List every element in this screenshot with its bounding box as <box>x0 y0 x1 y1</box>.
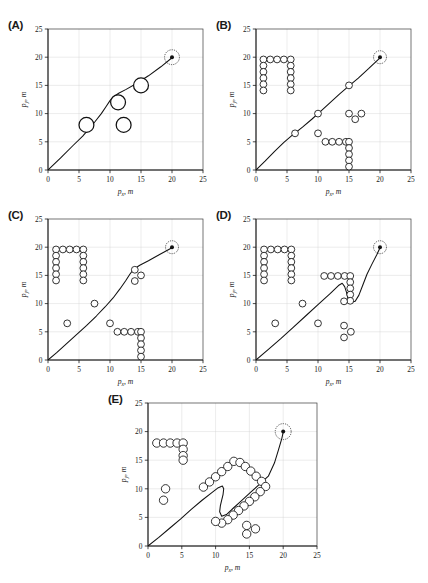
panel-c: (C)05101520250510152025px, mpy, m <box>8 204 214 396</box>
x-axis-label: px, m <box>325 187 342 197</box>
svg-text:0: 0 <box>46 365 50 374</box>
svg-text:15: 15 <box>243 81 251 90</box>
svg-text:15: 15 <box>137 175 145 184</box>
svg-text:0: 0 <box>146 551 150 560</box>
obstacle-marker <box>299 300 306 307</box>
goal-dot-icon <box>378 55 382 59</box>
svg-text:5: 5 <box>180 551 184 560</box>
svg-text:0: 0 <box>247 356 251 365</box>
x-axis-label: px, m <box>325 377 342 387</box>
panel-b: (B)05101520250510152025px, mpy, m <box>216 14 422 206</box>
panel-e: (E)05101520250510152025px, mpy, m <box>108 388 328 582</box>
svg-text:15: 15 <box>35 271 43 280</box>
obstacle-marker <box>243 530 251 538</box>
obstacle-marker <box>358 110 365 117</box>
svg-text:20: 20 <box>168 365 176 374</box>
obstacle-marker <box>179 456 187 464</box>
svg-text:0: 0 <box>39 166 43 175</box>
obstacle-marker <box>114 328 121 335</box>
obstacle-marker <box>59 246 66 253</box>
obstacle-marker <box>131 266 138 273</box>
goal-dot-icon <box>281 430 285 434</box>
svg-text:0: 0 <box>254 175 258 184</box>
obstacle-marker <box>260 87 267 94</box>
svg-text:10: 10 <box>314 365 322 374</box>
svg-text:5: 5 <box>247 328 251 337</box>
obstacle-marker <box>315 130 322 137</box>
svg-text:15: 15 <box>35 81 43 90</box>
svg-text:0: 0 <box>254 365 258 374</box>
svg-text:15: 15 <box>243 271 251 280</box>
svg-text:20: 20 <box>35 53 43 62</box>
panel-label-a: (A) <box>8 19 23 31</box>
obstacle-marker <box>288 277 295 284</box>
obstacle-marker <box>211 517 219 525</box>
plot-b: 05101520250510152025px, mpy, m <box>216 14 422 206</box>
svg-text:10: 10 <box>135 485 143 494</box>
obstacle-marker <box>329 138 336 145</box>
svg-text:20: 20 <box>243 53 251 62</box>
obstacle-marker <box>315 320 322 327</box>
svg-text:25: 25 <box>135 399 143 408</box>
obstacle-marker <box>131 278 138 285</box>
obstacle-marker <box>53 277 60 284</box>
obstacle-marker <box>328 273 335 280</box>
obstacle-marker <box>159 496 167 504</box>
svg-text:10: 10 <box>106 175 114 184</box>
obstacle-marker <box>64 320 71 327</box>
svg-text:5: 5 <box>285 365 289 374</box>
obstacle-marker <box>243 521 251 529</box>
obstacle-marker <box>251 525 259 533</box>
svg-text:25: 25 <box>35 25 43 34</box>
svg-text:20: 20 <box>280 551 288 560</box>
obstacle-marker <box>91 300 98 307</box>
obstacle-marker <box>138 353 145 360</box>
svg-text:5: 5 <box>39 328 43 337</box>
svg-text:5: 5 <box>39 138 43 147</box>
obstacle-marker <box>280 56 287 63</box>
svg-text:25: 25 <box>35 215 43 224</box>
panel-d: (D)05101520250510152025px, mpy, m <box>216 204 422 396</box>
svg-text:10: 10 <box>35 109 43 118</box>
obstacle-marker <box>274 246 281 253</box>
obstacle-marker <box>352 116 359 123</box>
obstacle-marker <box>346 163 353 170</box>
obstacle-marker <box>134 78 149 93</box>
plot-e: 05101520250510152025px, mpy, m <box>108 388 328 582</box>
svg-text:25: 25 <box>407 175 415 184</box>
obstacle-marker <box>287 87 294 94</box>
svg-text:10: 10 <box>106 365 114 374</box>
svg-text:10: 10 <box>212 551 220 560</box>
svg-text:20: 20 <box>35 243 43 252</box>
svg-text:5: 5 <box>77 365 81 374</box>
panel-label-d: (D) <box>216 209 231 221</box>
obstacle-marker <box>341 298 348 305</box>
svg-text:25: 25 <box>313 551 321 560</box>
goal-dot-icon <box>378 245 382 249</box>
obstacle-marker <box>116 117 131 132</box>
obstacle-marker <box>346 110 353 117</box>
svg-text:5: 5 <box>77 175 81 184</box>
y-axis-label: py, m <box>19 281 29 298</box>
x-axis-label: px, m <box>117 187 134 197</box>
svg-text:25: 25 <box>199 175 207 184</box>
y-axis-label: py, m <box>19 91 29 108</box>
svg-text:15: 15 <box>137 365 145 374</box>
obstacle-marker <box>261 277 268 284</box>
svg-text:10: 10 <box>314 175 322 184</box>
svg-text:20: 20 <box>135 427 143 436</box>
obstacle-marker <box>347 297 354 304</box>
obstacle-marker <box>347 328 354 335</box>
svg-text:15: 15 <box>246 551 254 560</box>
obstacle-marker <box>321 273 328 280</box>
obstacle-marker <box>281 246 288 253</box>
svg-text:0: 0 <box>46 175 50 184</box>
obstacle-marker <box>80 277 87 284</box>
svg-text:10: 10 <box>243 109 251 118</box>
plot-d: 05101520250510152025px, mpy, m <box>216 204 422 396</box>
obstacle-marker <box>346 82 353 89</box>
obstacle-marker <box>272 320 279 327</box>
svg-text:5: 5 <box>139 513 143 522</box>
obstacle-marker <box>128 328 135 335</box>
obstacle-marker <box>107 320 114 327</box>
